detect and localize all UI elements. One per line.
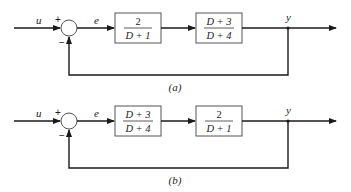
input-label: u [36,14,42,26]
diagram-b: u + − e D + 3 D + 4 2 D + 1 y (b) [14,104,336,187]
minus-sign: − [59,37,65,48]
block-1-denominator: D + 1 [124,30,150,41]
minus-sign: − [59,130,65,141]
feedback-path [69,28,288,75]
block-2-denominator: D + 4 [205,30,232,41]
block-2-denominator: D + 1 [205,123,231,134]
plus-sign: + [55,14,61,25]
block-1-numerator: D + 3 [124,109,150,120]
block-2-numerator: 2 [216,109,221,120]
diagram-a: u + − e 2 D + 1 D + 3 D + 4 y (a) [14,11,336,94]
block-1-numerator: 2 [135,16,140,27]
error-label: e [94,14,99,26]
output-label: y [285,104,291,116]
summing-junction [61,20,77,36]
summing-junction [61,113,77,129]
block-1-denominator: D + 4 [124,123,151,134]
block-diagrams: u + − e 2 D + 1 D + 3 D + 4 y (a) u + − [0,0,351,192]
plus-sign: + [55,107,61,118]
block-2-numerator: D + 3 [205,16,231,27]
diagram-a-caption: (a) [169,81,182,94]
output-label: y [285,11,291,23]
diagram-b-caption: (b) [169,174,182,187]
error-label: e [94,107,99,119]
input-label: u [36,107,42,119]
feedback-path [69,121,288,168]
